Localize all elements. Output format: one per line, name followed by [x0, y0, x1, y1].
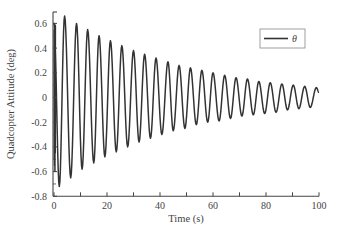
- y-tick-label: -0.6: [31, 166, 47, 177]
- y-tick-label: -0.4: [31, 141, 47, 152]
- x-tick-label: 80: [261, 200, 271, 211]
- legend: θ: [260, 29, 305, 48]
- chart: 0.60.40.20-0.2-0.4-0.6-0.8 020406080100 …: [0, 0, 342, 238]
- y-tick-label: -0.2: [31, 117, 47, 128]
- x-tick-label: 0: [52, 200, 57, 211]
- x-tick-label: 40: [155, 200, 165, 211]
- x-tick-label: 100: [312, 200, 327, 211]
- x-axis-title: Time (s): [168, 213, 204, 225]
- y-tick-label: 0.4: [35, 43, 48, 54]
- y-tick-label: 0.6: [35, 18, 48, 29]
- x-tick-label: 20: [102, 200, 112, 211]
- legend-label: θ: [292, 33, 297, 44]
- x-tick-label: 60: [208, 200, 218, 211]
- y-tick-label: 0.2: [35, 67, 48, 78]
- y-tick-label: 0: [42, 92, 47, 103]
- x-axis-ticks: 020406080100: [52, 192, 327, 211]
- y-tick-label: -0.8: [31, 191, 47, 202]
- y-axis-title: Quadcopter Attitude (deg): [5, 48, 17, 159]
